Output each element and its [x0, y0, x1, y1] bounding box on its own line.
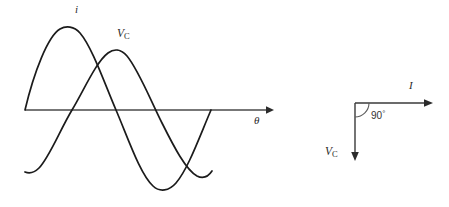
- capacitor-voltage-waveform-curve: [25, 50, 212, 177]
- degree-symbol-icon: °: [382, 109, 385, 118]
- right-angle-value: 90: [371, 110, 382, 121]
- figure-root: i VC θ I VC 90°: [0, 0, 449, 207]
- capacitor-voltage-phasor-label: VC: [325, 146, 338, 158]
- current-waveform-curve: [25, 27, 211, 190]
- capacitor-voltage-waveform-label-main: V: [117, 27, 124, 39]
- theta-axis-arrowhead: [266, 106, 274, 114]
- current-waveform-label: i: [75, 4, 78, 15]
- figure-canvas: [0, 0, 449, 207]
- phasor-panel: [351, 99, 433, 161]
- capacitor-voltage-phasor-arrowhead: [351, 152, 359, 161]
- capacitor-voltage-phasor-label-main: V: [325, 145, 332, 157]
- waveform-panel: [25, 27, 274, 190]
- right-angle-label: 90°: [371, 110, 385, 121]
- current-phasor-label: I: [409, 80, 413, 91]
- current-phasor-arrowhead: [424, 99, 433, 107]
- capacitor-voltage-waveform-label-subscript: C: [124, 31, 130, 41]
- theta-axis-label: θ: [254, 115, 259, 126]
- right-angle-arc: [355, 103, 369, 117]
- capacitor-voltage-phasor-label-subscript: C: [332, 149, 338, 159]
- capacitor-voltage-waveform-label: VC: [117, 28, 130, 40]
